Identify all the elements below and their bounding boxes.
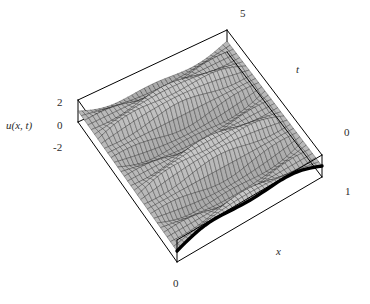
z-tick-2: 2 bbox=[57, 96, 63, 108]
z-tick-0: 0 bbox=[57, 119, 63, 131]
x-tick-1: 1 bbox=[345, 185, 351, 197]
surface-plot-figure: u(x, t) 2 0 -2 5 0 t 1 0 x bbox=[0, 0, 370, 304]
surface-mesh bbox=[78, 41, 322, 251]
t-axis-label: t bbox=[296, 63, 299, 75]
x-tick-0: 0 bbox=[173, 277, 179, 289]
z-axis-label: u(x, t) bbox=[6, 119, 32, 131]
t-tick-0: 0 bbox=[344, 126, 350, 138]
x-axis-label: x bbox=[276, 245, 281, 257]
z-tick-minus-2: -2 bbox=[53, 141, 62, 153]
t-tick-5: 5 bbox=[240, 7, 246, 19]
